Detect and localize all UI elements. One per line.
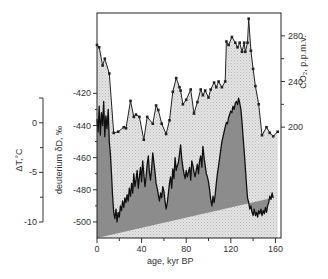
- co2-point: [252, 68, 255, 71]
- co2-point: [185, 99, 188, 102]
- deuterium-tick-label: -420: [73, 88, 91, 98]
- co2-point: [217, 80, 220, 83]
- co2-point: [104, 57, 107, 60]
- co2-point: [204, 89, 207, 92]
- co2-point: [101, 64, 104, 67]
- co2-point: [165, 133, 168, 136]
- co2-point: [182, 103, 185, 106]
- co2-point: [108, 72, 111, 75]
- co2-point: [246, 41, 249, 44]
- co2-point: [265, 126, 268, 129]
- co2-point: [135, 113, 138, 116]
- co2-point: [179, 89, 182, 92]
- co2-point: [238, 41, 241, 44]
- temperature-tick-label: -5: [29, 167, 37, 177]
- co2-point: [146, 116, 149, 119]
- co2-point: [227, 44, 230, 47]
- co2-point: [199, 88, 202, 91]
- deuterium-tick-label: -480: [73, 185, 91, 195]
- co2-point: [189, 88, 192, 91]
- co2-point: [250, 49, 253, 52]
- co2-point: [168, 119, 171, 122]
- co2-point: [272, 135, 275, 138]
- co2-point: [193, 112, 196, 115]
- deuterium-tick-label: -500: [73, 217, 91, 227]
- chart: 04080120160 age, kyr BP -420-440-460-480…: [0, 0, 328, 279]
- co2-point: [129, 100, 132, 103]
- co2-point: [224, 80, 227, 83]
- co2-point: [143, 138, 146, 141]
- co2-point: [138, 116, 141, 119]
- co2-point: [125, 127, 128, 130]
- co2-axis-title: CO₂, p.p.m.v.: [298, 35, 308, 88]
- deuterium-tick-label: -440: [73, 121, 91, 131]
- co2-point: [133, 116, 136, 119]
- co2-point: [215, 86, 218, 89]
- deuterium-tick-label: -460: [73, 153, 91, 163]
- co2-point: [244, 51, 247, 54]
- co2-point: [175, 77, 178, 80]
- co2-point: [225, 40, 228, 43]
- co2-point: [254, 85, 257, 88]
- co2-point: [221, 86, 224, 89]
- x-axis-title: age, kyr BP: [147, 256, 194, 266]
- co2-point: [178, 86, 181, 89]
- co2-point: [117, 130, 120, 133]
- co2-point: [269, 132, 272, 135]
- temperature-tick-label: -10: [24, 217, 37, 227]
- x-tick-label: 160: [268, 244, 283, 254]
- co2-tick-label: 200: [288, 122, 303, 132]
- co2-point: [213, 81, 216, 84]
- temperature-tick-label: 0: [32, 118, 37, 128]
- co2-point: [207, 96, 210, 99]
- co2-point: [247, 17, 250, 20]
- co2-point: [257, 103, 260, 106]
- co2-point: [98, 46, 101, 49]
- x-tick-label: 80: [181, 244, 191, 254]
- co2-point: [152, 122, 155, 125]
- x-tick-label: 40: [137, 244, 147, 254]
- co2-point: [196, 101, 199, 104]
- co2-point: [157, 109, 160, 112]
- x-tick-label: 0: [94, 244, 99, 254]
- co2-point: [241, 51, 244, 54]
- x-tick-label: 120: [223, 244, 238, 254]
- co2-point: [172, 91, 175, 94]
- co2-point: [234, 41, 237, 44]
- temperature-axis: 0-5-10: [24, 98, 43, 227]
- deuterium-axis-title: deuterium δD, ‰: [54, 126, 64, 194]
- co2-point: [160, 122, 163, 125]
- deuterium-axis: -420-440-460-480-500: [73, 88, 97, 227]
- co2-point: [209, 88, 212, 91]
- co2-point: [236, 46, 239, 49]
- temperature-axis-title: ΔT,°C: [14, 148, 24, 172]
- co2-point: [261, 134, 264, 137]
- co2-point: [155, 104, 158, 107]
- co2-point: [112, 132, 115, 135]
- co2-point: [202, 94, 205, 97]
- co2-point: [243, 41, 246, 44]
- co2-point: [276, 130, 279, 133]
- co2-point: [231, 36, 234, 39]
- x-axis: 04080120160: [94, 238, 282, 254]
